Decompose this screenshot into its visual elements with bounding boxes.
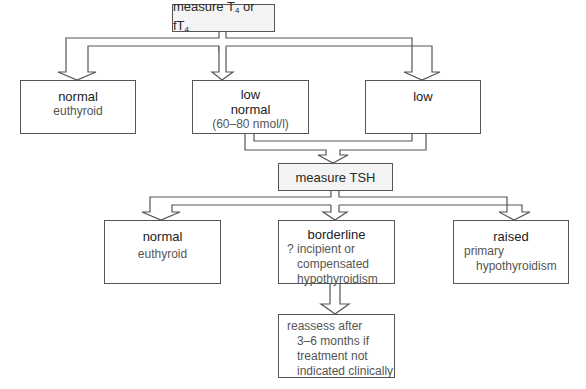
- measure-tsh-label: measure TSH: [296, 170, 376, 185]
- tsh-borderline-box: borderline ? incipient or compensated hy…: [278, 220, 395, 284]
- t4-normal-detail: euthyroid: [21, 104, 135, 119]
- t4-low-box: low: [365, 80, 481, 134]
- tsh-normal-detail: euthyroid: [105, 247, 220, 262]
- t4-normal-heading: normal: [21, 89, 135, 104]
- tsh-normal-box: normal euthyroid: [104, 220, 221, 284]
- measure-tsh-box: measure TSH: [278, 163, 393, 191]
- t4-low-normal-heading2: normal: [193, 102, 308, 117]
- tsh-normal-heading: normal: [105, 229, 220, 244]
- t4-low-normal-heading: low: [193, 87, 308, 102]
- t4-normal-box: normal euthyroid: [20, 80, 136, 134]
- t4-low-normal-detail: (60–80 nmol/l): [193, 117, 308, 132]
- measure-t4-label: measure T4 or fT4: [173, 0, 274, 37]
- tsh-raised-box: raised primary hypothyroidism: [453, 220, 569, 284]
- reassess-box: reassess after 3–6 months if treatment n…: [278, 314, 395, 378]
- tsh-raised-heading: raised: [454, 229, 568, 244]
- reassess-line-1: reassess after: [279, 319, 394, 334]
- reassess-line-4: indicated clinically: [279, 364, 394, 379]
- t4-low-heading: low: [366, 89, 480, 104]
- measure-t4-box: measure T4 or fT4: [172, 4, 275, 32]
- t4-low-normal-box: low normal (60–80 nmol/l): [192, 80, 309, 134]
- tsh-borderline-detail-3: hypothyroidism: [279, 272, 394, 287]
- reassess-line-2: 3–6 months if: [279, 334, 394, 349]
- tsh-borderline-detail-2: compensated: [279, 257, 394, 272]
- tsh-raised-detail-2: hypothyroidism: [454, 259, 568, 274]
- tsh-raised-detail-1: primary: [454, 244, 568, 259]
- reassess-line-3: treatment not: [279, 349, 394, 364]
- tsh-borderline-detail-1: ? incipient or: [279, 242, 394, 257]
- tsh-borderline-heading: borderline: [279, 227, 394, 242]
